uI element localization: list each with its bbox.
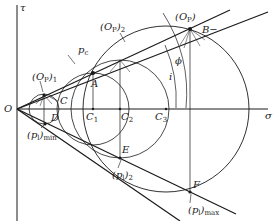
point-c3 (165, 108, 167, 110)
origin-label: O (4, 104, 12, 114)
sigma-axis-label: σ (265, 111, 272, 121)
diagram-graphics (0, 0, 277, 221)
i-line-lower (17, 109, 236, 214)
point-c1 (92, 108, 94, 110)
op1-label: (OP)1 (32, 72, 57, 84)
point-c-label: C (60, 96, 68, 106)
phi-envelope-lower (17, 109, 180, 221)
c3-label: C3 (155, 112, 167, 124)
mohr-diagram: τ σ O (OP)1 (OP)2 (OP) pc A B− C C1 C2 C… (0, 0, 277, 221)
point-b-label: B− (202, 25, 218, 35)
phi-label: ϕ (175, 56, 182, 66)
pl2-label: (pl)2 (112, 170, 133, 182)
pl-min-label: (pl)min (27, 130, 57, 142)
point-d (43, 122, 46, 125)
pc-label: pc (78, 45, 88, 57)
point-c (42, 93, 45, 96)
point-a (91, 71, 95, 75)
tau-axis-label: τ (20, 3, 26, 13)
pl-max-label: (pl)max (188, 205, 219, 217)
op2-label: (OP)2 (100, 22, 125, 34)
op-label: (OP) (175, 12, 196, 24)
point-f (188, 190, 191, 193)
i-label: i (169, 72, 172, 82)
point-b (188, 27, 192, 31)
point-c2 (119, 108, 121, 110)
i-line-upper (17, 12, 268, 109)
c1-label: C1 (86, 112, 98, 124)
point-e (118, 156, 121, 159)
point-a-label: A (91, 79, 98, 89)
point-f-label: F (193, 180, 200, 190)
point-e-label: E (122, 145, 129, 155)
point-d-label: D (51, 113, 59, 123)
c2-label: C2 (121, 112, 133, 124)
